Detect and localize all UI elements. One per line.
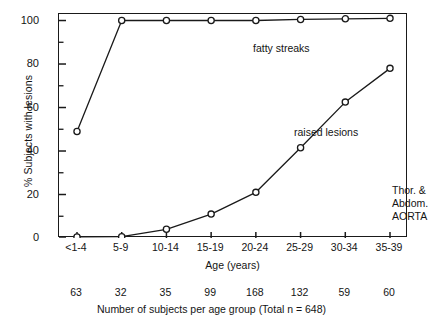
- y-tick-marks: [59, 21, 66, 238]
- data-point: [387, 15, 393, 21]
- x-axis-title: Age (years): [58, 259, 407, 271]
- data-point: [163, 17, 169, 23]
- y-tick-label: 60: [27, 101, 39, 113]
- data-point: [253, 17, 259, 23]
- tissue-annotation: Thor. & Abdom. AORTA: [392, 184, 428, 224]
- x-tick-label: 30-34: [331, 241, 358, 253]
- subject-count: 168: [246, 286, 264, 298]
- x-tick-label: <1-4: [65, 241, 86, 253]
- x-tick-label: 15-19: [197, 241, 224, 253]
- data-point: [297, 16, 303, 22]
- data-point: [387, 65, 393, 71]
- data-point: [208, 211, 214, 217]
- subject-count: 59: [338, 286, 350, 298]
- x-tick-label: 10-14: [152, 241, 179, 253]
- subject-count: 35: [160, 286, 172, 298]
- data-point: [74, 234, 80, 238]
- tissue-annotation-line-1: Thor. &: [392, 184, 428, 197]
- subject-count: 60: [383, 286, 395, 298]
- data-point: [342, 16, 348, 22]
- x-tick-label: 35-39: [376, 241, 403, 253]
- y-tick-label: 80: [27, 57, 39, 69]
- tissue-annotation-line-2: Abdom.: [392, 197, 428, 210]
- y-axis-tick-labels: 020406080100: [0, 0, 58, 329]
- data-point: [119, 234, 125, 238]
- series-fatty-streaks: [74, 15, 393, 134]
- subject-counts-row: 633235991681325960: [58, 286, 407, 302]
- data-point: [253, 189, 259, 195]
- data-point: [208, 17, 214, 23]
- data-point: [163, 226, 169, 232]
- data-point: [119, 17, 125, 23]
- x-tick-label: 25-29: [286, 241, 313, 253]
- subject-count: 32: [115, 286, 127, 298]
- data-point: [297, 145, 303, 151]
- subject-counts-caption: Number of subjects per age group (Total …: [0, 303, 423, 315]
- plot-area: fatty streaks raised lesions Thor. & Abd…: [58, 13, 407, 237]
- y-tick-label: 40: [27, 144, 39, 156]
- subject-count: 132: [291, 286, 309, 298]
- series-raised-lesions: [74, 65, 393, 238]
- x-tick-label: 5-9: [113, 241, 128, 253]
- x-axis-tick-labels: <1-45-910-1415-1920-2425-2930-3435-39: [58, 241, 407, 259]
- fatty-streaks-annotation: fatty streaks: [253, 42, 310, 54]
- x-tick-label: 20-24: [241, 241, 268, 253]
- y-tick-label: 0: [33, 231, 39, 243]
- data-point: [342, 99, 348, 105]
- tissue-annotation-line-3: AORTA: [392, 210, 428, 223]
- y-tick-label: 20: [27, 188, 39, 200]
- subject-count: 63: [70, 286, 82, 298]
- raised-lesions-annotation: raised lesions: [294, 126, 358, 138]
- data-point: [74, 128, 80, 134]
- y-tick-label: 100: [21, 14, 39, 26]
- subject-count: 99: [204, 286, 216, 298]
